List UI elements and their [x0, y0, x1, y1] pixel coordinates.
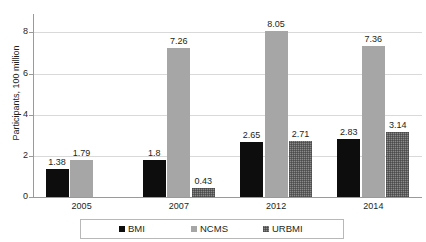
bar-chart: Participants, 100 million 02468 1.381.79…: [0, 0, 426, 242]
bar-value-label: 7.36: [358, 35, 389, 44]
bar-bmi: [46, 169, 69, 197]
y-tick-label: 2: [2, 151, 28, 160]
chart-legend: BMINCMSURBMI: [80, 219, 344, 239]
bar-value-label: 1.8: [139, 149, 170, 158]
x-tick-label: 2012: [228, 202, 325, 211]
legend-swatch-icon: [119, 226, 125, 232]
bar-group: 2.658.052.71: [228, 20, 325, 197]
y-axis-tick-labels: 02468: [0, 0, 28, 242]
bar-ncms: [70, 160, 93, 197]
bar-value-label: 2.83: [333, 128, 364, 137]
y-tick-label: 0: [2, 192, 28, 201]
legend-swatch-icon: [191, 226, 197, 232]
bar-urbmi: [192, 188, 215, 197]
bar-group: 1.381.79: [33, 20, 130, 197]
legend-item-bmi[interactable]: BMI: [119, 224, 145, 234]
legend-label: URBMI: [272, 224, 303, 234]
bar-bmi: [240, 142, 263, 197]
y-tick-mark: [29, 32, 33, 33]
x-tick-label: 2005: [33, 202, 130, 211]
y-tick-mark: [29, 156, 33, 157]
y-tick-label: 6: [2, 69, 28, 78]
x-axis-category-labels: 2005200720122014: [33, 202, 422, 218]
bar-group: 1.87.260.43: [130, 20, 227, 197]
x-tick-label: 2007: [130, 202, 227, 211]
bar-ncms: [167, 48, 190, 197]
y-tick-mark: [29, 115, 33, 116]
y-tick-label: 4: [2, 110, 28, 119]
bar-bmi: [143, 160, 166, 197]
x-tick-label: 2014: [325, 202, 422, 211]
y-tick-mark: [29, 74, 33, 75]
y-tick-label: 8: [2, 27, 28, 36]
y-tick-mark: [29, 197, 33, 198]
bar-group: 2.837.363.14: [325, 20, 422, 197]
legend-item-ncms[interactable]: NCMS: [191, 224, 228, 234]
bar-value-label: 7.26: [163, 37, 194, 46]
bar-value-label: 2.65: [236, 131, 267, 140]
legend-item-urbmi[interactable]: URBMI: [263, 224, 303, 234]
bar-ncms: [265, 31, 288, 197]
legend-label: BMI: [128, 224, 145, 234]
bar-value-label: 8.05: [261, 20, 292, 29]
bars-layer: 1.381.791.87.260.432.658.052.712.837.363…: [33, 20, 422, 197]
x-axis-line: [33, 197, 422, 198]
bar-value-label: 1.79: [66, 149, 97, 158]
bar-bmi: [337, 139, 360, 197]
bar-value-label: 2.71: [285, 130, 316, 139]
bar-urbmi: [289, 141, 312, 197]
bar-urbmi: [386, 132, 409, 197]
legend-swatch-icon: [263, 226, 269, 232]
bar-value-label: 1.38: [42, 158, 73, 167]
bar-value-label: 3.14: [382, 121, 413, 130]
bar-value-label: 0.43: [188, 177, 219, 186]
legend-label: NCMS: [200, 224, 228, 234]
